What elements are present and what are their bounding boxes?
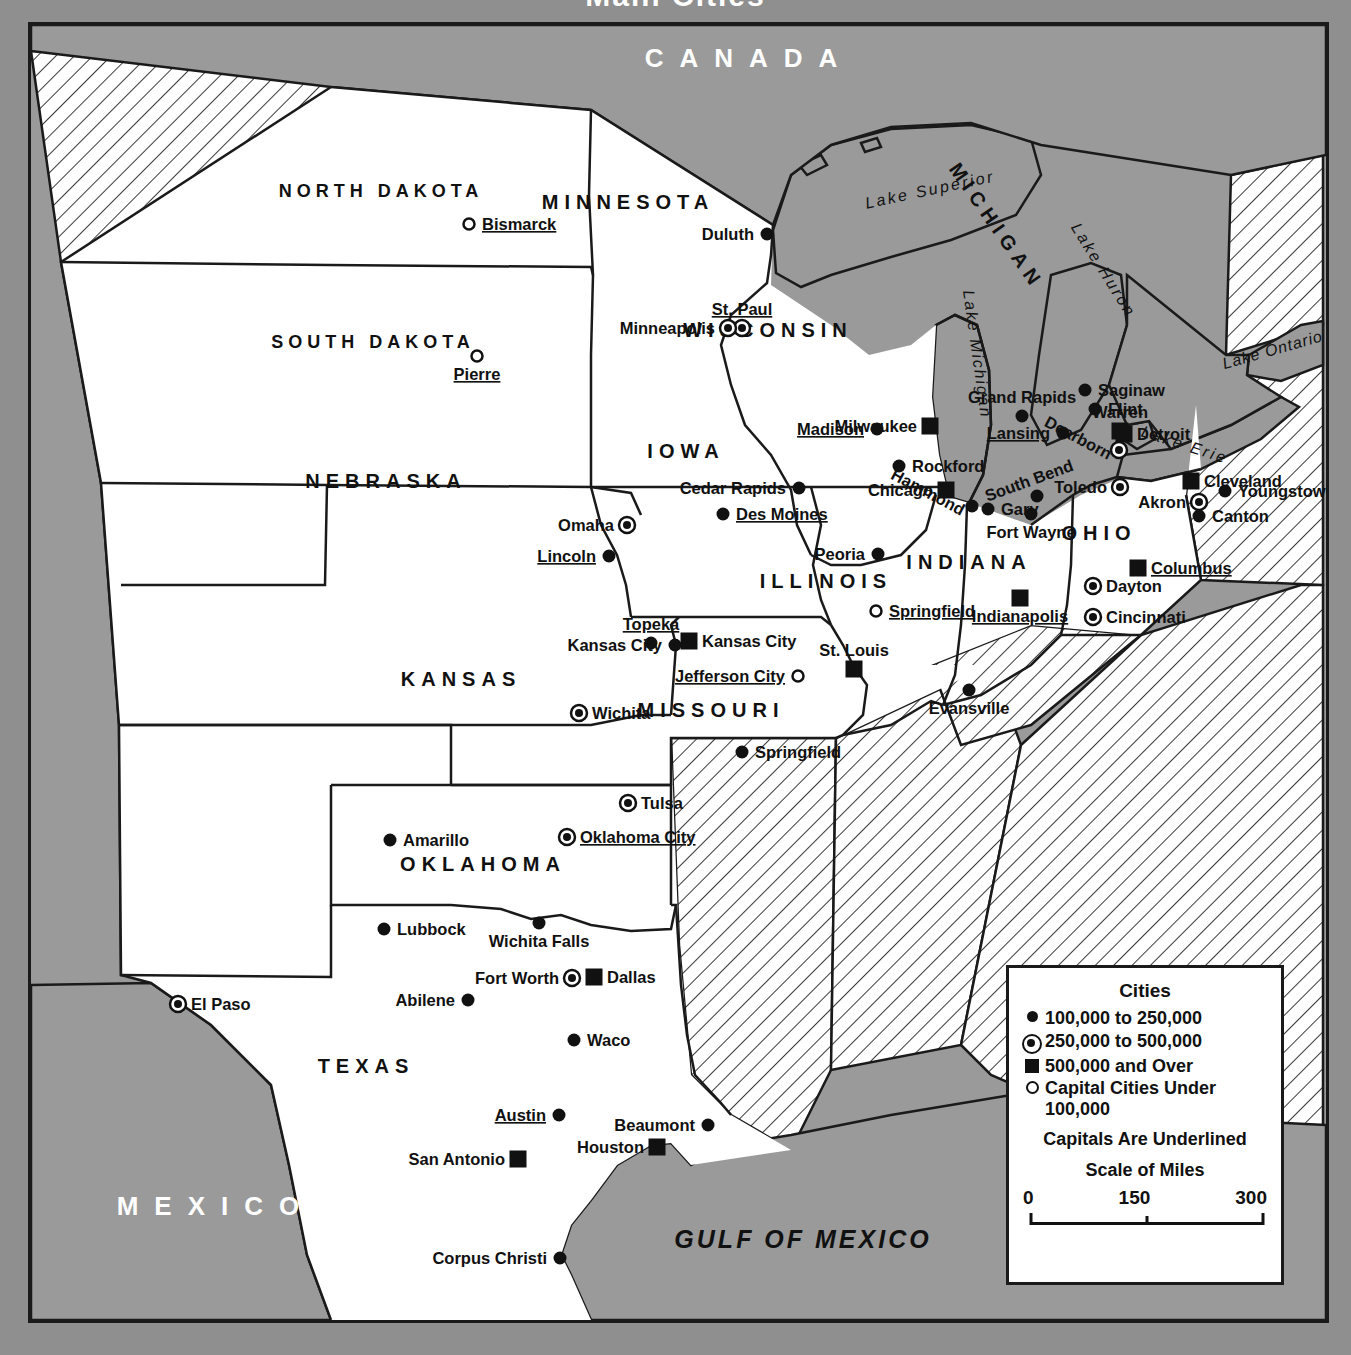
dot-icon [872,548,885,561]
dot-icon [1219,485,1232,498]
city-label: Grand Rapids [968,388,1076,406]
dot-icon [963,684,976,697]
ring-dot-icon [1019,1031,1045,1054]
city-label: Warren [1092,403,1148,421]
city-label: San Antonio [408,1150,505,1168]
scale-tick-300: 300 [1235,1187,1267,1209]
square-icon [1019,1056,1045,1073]
hollow-circle-icon [472,351,483,362]
city-label: Dallas [607,968,656,986]
city-label: Lansing [987,424,1050,442]
dot-icon [553,1109,566,1122]
map-page: Main Cities [0,0,1351,1355]
square-icon [922,418,939,435]
city-oklahoma-city[interactable]: Oklahoma City [559,828,696,846]
city-label: St. Paul [712,300,773,318]
city-label: Des Moines [736,505,828,523]
label-canada: CANADA [645,43,854,73]
city-label: Beaumont [614,1116,695,1134]
city-label: Springfield [755,743,841,761]
state-label-illinois: ILLINOIS [760,570,892,592]
city-akron[interactable]: Akron [1138,493,1207,511]
city-label: Jefferson City [675,667,786,685]
city-label: Wichita Falls [489,932,590,950]
city-label: Pierre [454,365,501,383]
state-label-kansas: KANSAS [401,668,521,690]
hollow-circle-icon [871,606,882,617]
legend-scale-title: Scale of Miles [1019,1160,1271,1181]
square-icon [1183,473,1200,490]
state-label-iowa: IOWA [647,440,724,462]
hollow-circle-icon [793,671,804,682]
city-omaha[interactable]: Omaha [558,516,635,534]
dot-icon [1016,410,1029,423]
city-tulsa[interactable]: Tulsa [620,794,684,812]
dot-icon [1031,490,1044,503]
city-dayton[interactable]: Dayton [1085,577,1162,595]
city-label: Saginaw [1098,381,1165,399]
city-corpus-christi[interactable]: Corpus Christi [432,1249,566,1267]
state-label-missouri: MISSOURI [638,699,785,721]
city-el-paso[interactable]: El Paso [170,995,251,1013]
city-label: Cedar Rapids [680,479,786,497]
city-label: Evansville [929,699,1010,717]
city-label: Houston [577,1138,644,1156]
label-gulf-of-mexico: GULF OF MEXICO [674,1225,931,1253]
city-columbus[interactable]: Columbus [1130,559,1232,577]
city-label: Fort Worth [475,969,559,987]
legend-entry-label: 100,000 to 250,000 [1045,1008,1202,1029]
city-label: Youngstown [1238,482,1326,500]
city-dallas[interactable]: Dallas [586,968,656,986]
dot-icon [378,923,391,936]
legend-entry-100k-250k: 100,000 to 250,000 [1019,1008,1271,1029]
city-houston[interactable]: Houston [577,1138,665,1156]
scale-bar [1027,1207,1267,1227]
state-label-nebraska: NEBRASKA [305,470,466,492]
city-wichita[interactable]: Wichita [571,704,651,722]
city-label: Columbus [1151,559,1232,577]
state-label-north-dakota: NORTH DAKOTA [279,181,484,201]
square-icon [1116,426,1133,443]
map-legend: Cities 100,000 to 250,000 250,000 to 500… [1006,965,1284,1285]
city-label: Lubbock [397,920,467,938]
dot-icon [669,639,682,652]
dot-icon [603,550,616,563]
dot-icon [1079,384,1092,397]
dot-icon [793,482,806,495]
city-label: Bismarck [482,215,557,233]
legend-entry-capital-small: Capital Cities Under 100,000 [1019,1078,1271,1119]
dot-icon [736,746,749,759]
dot-icon [533,917,546,930]
city-detroit[interactable]: Detroit [1116,425,1191,443]
legend-entry-500k-over: 500,000 and Over [1019,1056,1271,1077]
city-label: Springfield [889,602,975,620]
legend-entry-label: 500,000 and Over [1045,1056,1193,1077]
city-label: Fort Wayne [986,523,1075,541]
city-label: Topeka [623,615,680,633]
city-label: El Paso [191,995,251,1013]
state-label-indiana: INDIANA [906,551,1031,573]
city-label: St. Louis [819,641,889,659]
square-icon [1130,560,1147,577]
square-icon [681,633,698,650]
scale-tick-0: 0 [1023,1187,1034,1209]
city-label: Duluth [702,225,754,243]
city-milwaukee[interactable]: Milwaukee [834,417,938,435]
city-label: Corpus Christi [432,1249,547,1267]
city-label: Minneapolis [620,319,715,337]
dot-icon [717,508,730,521]
dot-icon [702,1119,715,1132]
city-label: Indianapolis [972,607,1068,625]
legend-title: Cities [1019,980,1271,1002]
city-label: Wichita [592,704,651,722]
dot-icon [761,228,774,241]
state-label-south-dakota: SOUTH DAKOTA [271,332,475,352]
city-label: Kansas City [568,636,663,654]
city-jefferson-city[interactable]: Jefferson City [675,667,804,685]
hollow-circle-icon [464,219,475,230]
city-label: Austin [495,1106,546,1124]
city-label: Amarillo [403,831,469,849]
city-label: Omaha [558,516,615,534]
city-toledo[interactable]: Toledo [1054,478,1128,496]
map-title: Main Cities [0,0,1351,14]
